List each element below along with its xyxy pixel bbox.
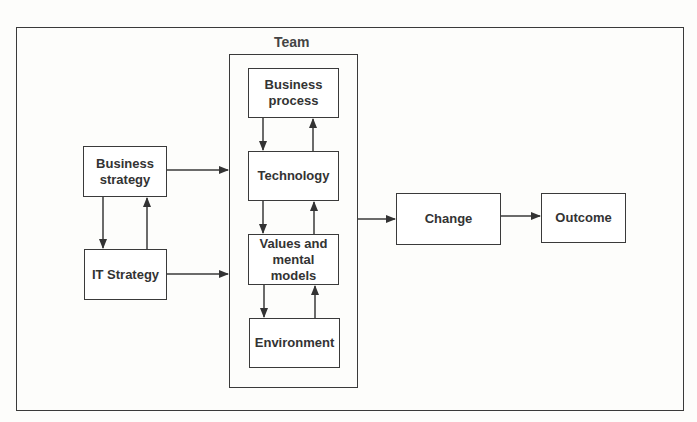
diagram-canvas: Team Business strategy IT Strategy Busin… <box>0 0 697 422</box>
arrows-layer <box>0 0 697 422</box>
